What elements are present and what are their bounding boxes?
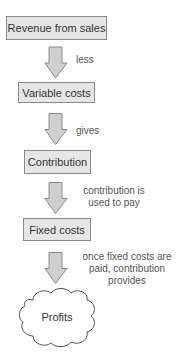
down-arrow-icon [44, 251, 68, 286]
node-label: Profits [41, 311, 72, 323]
node-contribution: Contribution [24, 150, 91, 174]
node-profits: Profits [15, 311, 99, 323]
node-label: Fixed costs [29, 224, 85, 236]
down-arrow-icon [44, 112, 68, 147]
edge-label-line: contribution is [74, 185, 154, 197]
edge-label-less: less [76, 54, 94, 66]
edge-label-gives: gives [76, 125, 99, 137]
edge-label-line: used to pay [74, 197, 154, 209]
node-label: Variable costs [22, 87, 90, 99]
edge-label-contribution-provides: once fixed costs are paid, contribution … [74, 251, 180, 287]
edge-label-contribution-pays: contribution is used to pay [74, 185, 154, 209]
edge-label-line: less [76, 54, 94, 66]
down-arrow-icon [44, 181, 68, 216]
node-label: Contribution [28, 156, 87, 168]
node-fixed-costs: Fixed costs [23, 218, 91, 241]
node-revenue-from-sales: Revenue from sales [6, 16, 107, 40]
edge-label-line: once fixed costs are [74, 251, 180, 263]
node-label: Revenue from sales [8, 22, 106, 34]
node-variable-costs: Variable costs [18, 82, 95, 103]
edge-label-line: paid, contribution [74, 263, 180, 275]
edge-label-line: gives [76, 125, 99, 137]
down-arrow-icon [44, 46, 68, 80]
